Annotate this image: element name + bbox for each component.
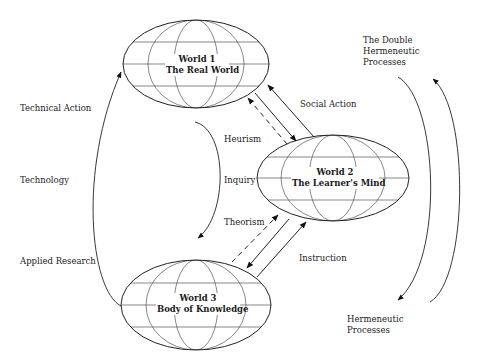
technology-arc-arrow (93, 72, 121, 306)
theorism-label: Theorism (224, 217, 265, 228)
world1-title: World 1 (166, 54, 228, 65)
world3-subtitle: Body of Knowledge (157, 304, 239, 315)
world1-subtitle: The Real World (166, 65, 228, 76)
world1-to-world2-arrow (255, 93, 296, 141)
world2-subtitle: The Learner's Mind (292, 178, 378, 189)
heurism-label: Heurism (224, 134, 261, 145)
social-action-label: Social Action (300, 99, 357, 110)
double-hermeneutic-line2: Hermeneutic (363, 46, 419, 57)
hermeneutic-line1: Hermeneutic (347, 314, 403, 325)
inquiry-arc-arrow (195, 122, 220, 238)
world2-label: World 2 The Learner's Mind (291, 167, 379, 189)
double-hermeneutic-line1: The Double (363, 35, 419, 46)
world2-title: World 2 (292, 167, 378, 178)
hermeneutic-processes-label: Hermeneutic Processes (347, 314, 403, 336)
diagram-canvas: World 1 The Real World World 2 The Learn… (0, 0, 479, 364)
world1-label: World 1 The Real World (165, 54, 229, 76)
world3-title: World 3 (157, 293, 239, 304)
double-hermeneutic-down-arrow (398, 77, 431, 300)
world3-label: World 3 Body of Knowledge (156, 293, 240, 315)
technical-action-label: Technical Action (20, 103, 91, 114)
technology-label: Technology (20, 175, 69, 186)
double-hermeneutic-label: The Double Hermeneutic Processes (363, 35, 419, 68)
inquiry-label: Inquiry (224, 175, 255, 186)
double-hermeneutic-line3: Processes (363, 57, 419, 68)
applied-research-label: Applied Research (20, 256, 96, 267)
instruction-arrow (257, 222, 306, 277)
instruction-label: Instruction (299, 253, 347, 264)
double-hermeneutic-up-arrow (430, 79, 460, 302)
hermeneutic-line2: Processes (347, 325, 403, 336)
